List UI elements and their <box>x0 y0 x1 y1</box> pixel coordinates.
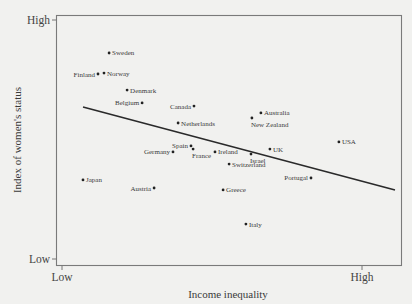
y-tick-label-low: Low <box>29 253 51 265</box>
regression-line <box>83 107 395 190</box>
data-point-japan: Japan <box>82 176 103 184</box>
point-label: New Zealand <box>251 121 289 129</box>
point-marker <box>260 112 263 115</box>
point-marker <box>177 122 180 125</box>
point-marker <box>251 117 254 120</box>
data-point-belgium: Belgium <box>115 99 144 107</box>
point-label: Norway <box>107 70 130 78</box>
point-marker <box>192 148 195 151</box>
point-marker <box>190 145 193 148</box>
data-point-norway: Norway <box>103 70 130 78</box>
point-label: Austria <box>130 185 152 193</box>
data-point-netherlands: Netherlands <box>177 120 215 128</box>
data-point-australia: Australia <box>260 109 291 117</box>
point-marker <box>228 163 231 166</box>
data-point-italy: Italy <box>245 221 263 229</box>
point-label: France <box>192 152 211 160</box>
point-label: UK <box>273 146 283 154</box>
point-marker <box>126 89 129 92</box>
point-label: Italy <box>249 221 262 229</box>
point-label: Germany <box>144 148 171 156</box>
data-point-france: France <box>192 148 211 160</box>
point-label: Denmark <box>130 87 157 95</box>
data-point-portugal: Portugal <box>284 174 312 182</box>
data-point-usa: USA <box>338 138 356 146</box>
point-label: Australia <box>264 109 291 117</box>
point-label: Finland <box>74 71 96 79</box>
x-tick-label-high: High <box>351 271 374 284</box>
trendline-layer <box>83 107 395 190</box>
data-point-spain: Spain <box>172 142 192 150</box>
data-points-layer: SwedenFinlandNorwayDenmarkBelgiumCanadaN… <box>74 49 356 228</box>
point-marker <box>141 102 144 105</box>
data-point-finland: Finland <box>74 71 100 79</box>
scatter-chart: High Low Low High Income inequality Inde… <box>0 0 412 304</box>
point-label: Ireland <box>218 148 238 156</box>
point-marker <box>103 72 106 75</box>
point-marker <box>214 151 217 154</box>
point-label: Spain <box>172 142 188 150</box>
data-point-switzerland: Switzerland <box>228 161 266 169</box>
point-label: Netherlands <box>181 120 215 128</box>
data-point-austria: Austria <box>130 185 155 193</box>
point-marker <box>222 189 225 192</box>
data-point-germany: Germany <box>144 148 174 156</box>
y-tick-label-high: High <box>27 14 50 27</box>
data-point-ireland: Ireland <box>214 148 239 156</box>
data-point-sweden: Sweden <box>108 49 135 57</box>
point-marker <box>269 148 272 151</box>
data-point-new-zealand: New Zealand <box>251 117 289 129</box>
point-marker <box>97 73 100 76</box>
point-marker <box>153 187 156 190</box>
point-marker <box>245 223 248 226</box>
point-label: Canada <box>170 103 192 111</box>
data-point-canada: Canada <box>170 103 195 111</box>
data-point-greece: Greece <box>222 186 246 194</box>
point-label: Greece <box>226 186 246 194</box>
point-marker <box>82 178 85 181</box>
point-marker <box>172 151 175 154</box>
y-axis-title: Index of women's status <box>11 87 23 193</box>
point-label: Sweden <box>112 49 135 57</box>
data-point-uk: UK <box>269 146 284 154</box>
x-tick-label-low: Low <box>51 271 73 283</box>
point-marker <box>338 140 341 143</box>
point-marker <box>250 153 253 156</box>
point-label: USA <box>342 138 356 146</box>
point-label: Belgium <box>115 99 140 107</box>
point-marker <box>108 52 111 55</box>
point-marker <box>310 177 313 180</box>
point-label: Japan <box>86 176 102 184</box>
point-label: Switzerland <box>232 161 266 169</box>
point-label: Portugal <box>284 174 308 182</box>
point-marker <box>193 105 196 108</box>
data-point-denmark: Denmark <box>126 87 157 95</box>
x-axis-title: Income inequality <box>188 288 268 300</box>
